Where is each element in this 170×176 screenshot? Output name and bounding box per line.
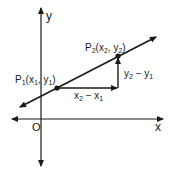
y-axis-label: y bbox=[46, 9, 52, 23]
p1-label: P1(x1, y1) bbox=[15, 74, 56, 86]
point-p1 bbox=[54, 85, 59, 90]
diagram-svg: y x O P1(x1, y1) P2(x2, y2) x2 − x1 y2 −… bbox=[0, 0, 170, 176]
p2-label: P2(x2, y2) bbox=[85, 42, 126, 54]
x-axis-label: x bbox=[155, 120, 161, 134]
rise-label: y2 − y1 bbox=[124, 68, 153, 80]
origin-label: O bbox=[32, 121, 41, 133]
slope-diagram: y x O P1(x1, y1) P2(x2, y2) x2 − x1 y2 −… bbox=[0, 0, 170, 176]
run-label: x2 − x1 bbox=[74, 90, 103, 102]
point-p2 bbox=[115, 53, 120, 58]
